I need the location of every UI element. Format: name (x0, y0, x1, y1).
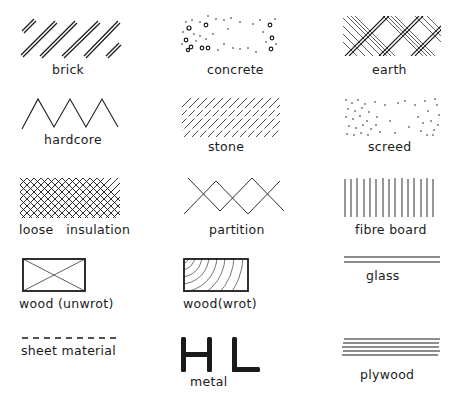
sheet-material-label: sheet material (21, 343, 116, 358)
earth-label: earth (372, 62, 407, 77)
metal-sections-icon (181, 336, 263, 374)
hardcore-symbol (20, 97, 122, 131)
metal-symbol (181, 336, 263, 374)
plywood-layers-icon (342, 338, 440, 356)
screed-stipple-icon (343, 97, 441, 137)
hardcore-zigzag-icon (20, 97, 122, 131)
glass-label: glass (366, 268, 400, 283)
glass-double-line-icon (344, 256, 440, 264)
wood-unwrot-symbol (22, 258, 86, 292)
wood-wrot-label: wood(wrot) (183, 296, 257, 311)
sheet-material-symbol (22, 336, 118, 340)
fibre-board-symbol (343, 178, 439, 218)
metal-label: metal (190, 374, 227, 389)
partition-symbol (188, 178, 284, 216)
plywood-symbol (342, 338, 440, 356)
fibre-board-label: fibre board (355, 222, 427, 237)
loose-insulation-crosshatch-icon (20, 178, 120, 218)
earth-symbol (343, 16, 441, 56)
wood-wrot-symbol (183, 258, 249, 292)
fibre-board-vertical-lines-icon (343, 178, 439, 218)
brick-hatch-icon (18, 16, 122, 58)
hardcore-label: hardcore (44, 132, 102, 147)
partition-label: partition (209, 222, 265, 237)
concrete-label: concrete (207, 62, 264, 77)
brick-symbol (18, 16, 122, 58)
stone-hatch-icon (182, 97, 280, 137)
screed-symbol (343, 97, 441, 137)
screed-label: screed (368, 139, 411, 154)
plywood-label: plywood (360, 367, 414, 382)
concrete-hatch-icon (178, 14, 278, 56)
brick-label: brick (52, 62, 84, 77)
wood-wrot-grain-icon (183, 258, 249, 292)
glass-symbol (344, 256, 440, 264)
concrete-symbol (178, 14, 278, 56)
wood-unwrot-cross-icon (22, 258, 86, 292)
loose-insulation-label: loose insulation (19, 222, 130, 237)
earth-hatch-icon (343, 16, 441, 56)
partition-crossing-lines-icon (188, 178, 284, 216)
wood-unwrot-label: wood (unwrot) (19, 296, 114, 311)
stone-label: stone (208, 139, 244, 154)
stone-symbol (182, 97, 280, 137)
loose-insulation-symbol (20, 178, 120, 218)
sheet-material-dashed-line-icon (22, 336, 118, 340)
